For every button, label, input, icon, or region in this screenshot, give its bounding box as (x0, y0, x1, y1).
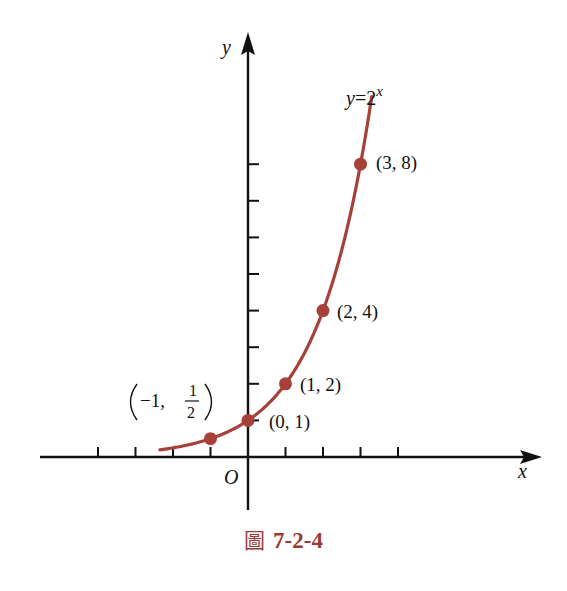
data-point-marker (204, 432, 217, 445)
svg-text:1: 1 (189, 382, 197, 399)
origin-label: O (224, 466, 238, 488)
point-label-3-8: (3, 8) (376, 152, 417, 174)
exponential-function-figure: y x O y=2x (3, 8) (2, 4) (1, 2) (0, 1) −… (0, 0, 567, 591)
x-axis (40, 447, 542, 464)
svg-text:−1,: −1, (140, 390, 165, 411)
point-label-1-2: (1, 2) (300, 374, 341, 396)
point-label-2-4: (2, 4) (337, 301, 378, 323)
point-label-neg1-half: −1, 1 2 (131, 382, 212, 421)
figure-number: 7-2-4 (273, 528, 323, 553)
figure-caption: 圖7-2-4 (0, 524, 567, 554)
svg-text:2: 2 (187, 404, 195, 421)
data-point-marker (242, 414, 255, 427)
y-axis (241, 32, 259, 510)
function-label: y=2x (344, 83, 383, 110)
data-point-marker (279, 377, 292, 390)
data-point-marker (317, 304, 330, 317)
figure-glyph: 圖 (244, 529, 265, 553)
x-axis-label: x (517, 460, 527, 482)
point-label-0-1: (0, 1) (269, 411, 310, 433)
data-point-marker (354, 158, 367, 171)
y-axis-label: y (220, 36, 231, 59)
